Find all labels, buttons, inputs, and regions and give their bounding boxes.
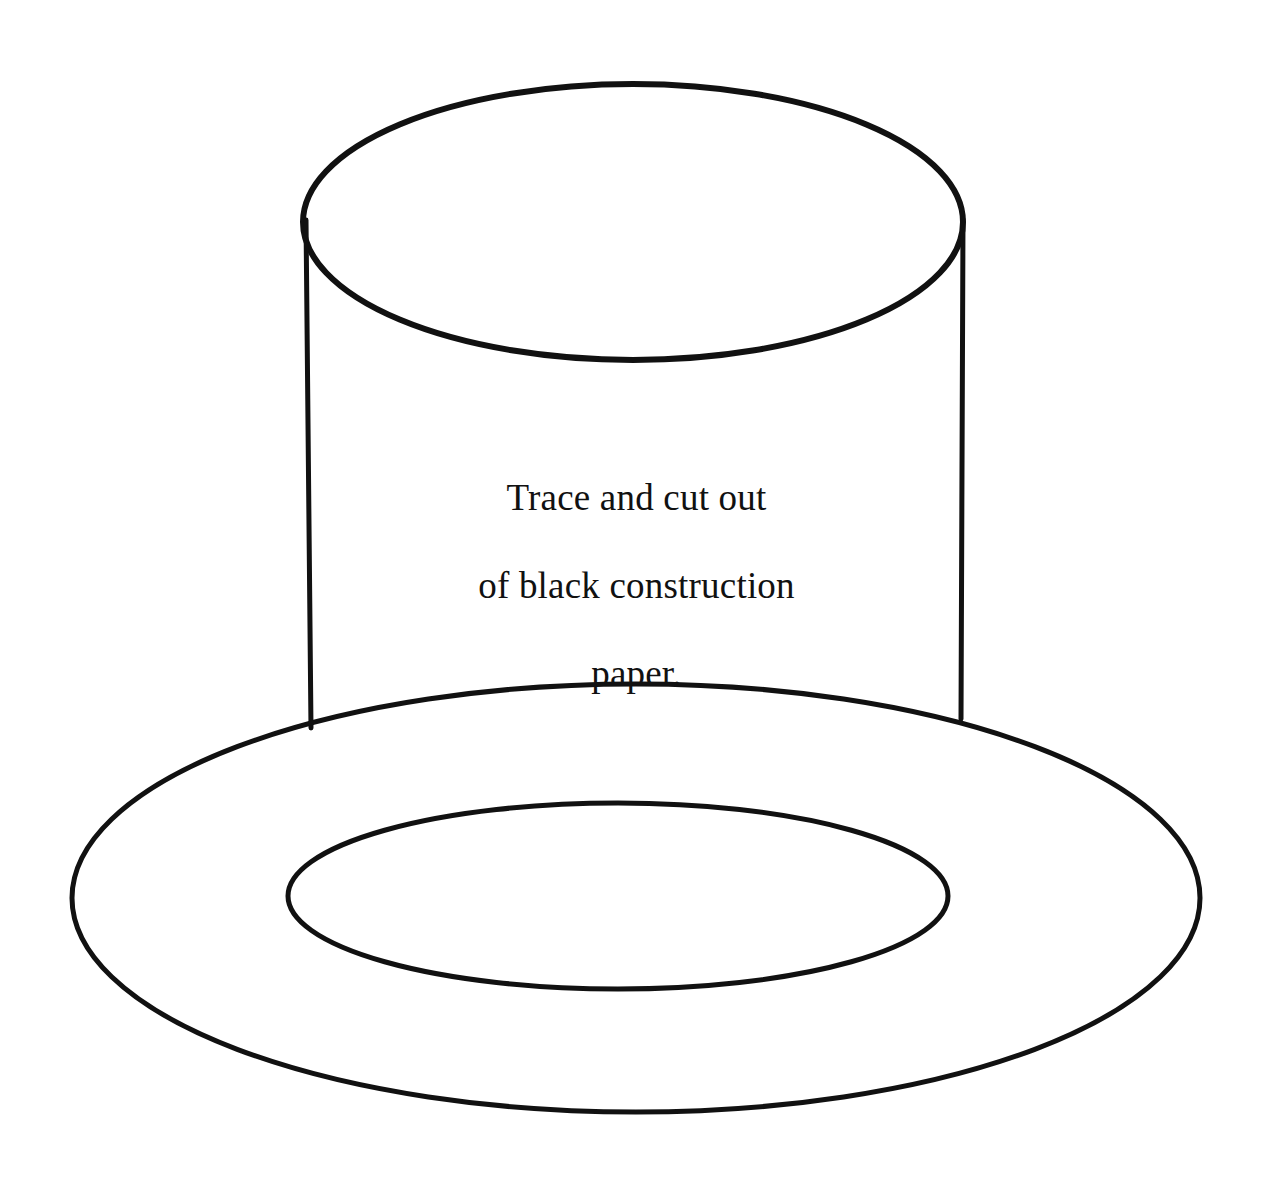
brim-outer-ellipse bbox=[72, 684, 1200, 1112]
crown-top-ellipse bbox=[303, 84, 963, 360]
brim-inner-ellipse bbox=[288, 803, 948, 989]
instruction-text-block: Trace and cut out of black construction … bbox=[0, 432, 1273, 740]
instruction-line-1: Trace and cut out bbox=[0, 476, 1273, 520]
instruction-line-3: paper. bbox=[0, 652, 1273, 696]
page-canvas: Trace and cut out of black construction … bbox=[0, 0, 1273, 1196]
instruction-line-2: of black construction bbox=[0, 564, 1273, 608]
